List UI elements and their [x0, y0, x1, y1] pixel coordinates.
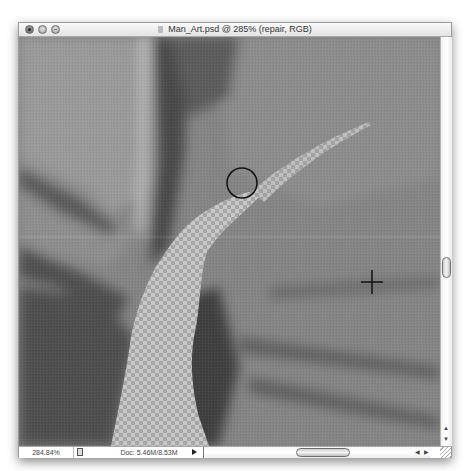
vertical-scroll-thumb[interactable] [442, 257, 451, 278]
status-bar: 284.84% Doc: 5.46M/8.53M ◀ ▶ [19, 446, 451, 458]
window-title: Man_Art.psd @ 285% (repair, RGB) [19, 23, 451, 36]
document-window: Man_Art.psd @ 285% (repair, RGB) [18, 22, 452, 458]
window-title-text: Man_Art.psd @ 285% (repair, RGB) [168, 24, 312, 34]
horizontal-scroll-thumb[interactable] [296, 448, 350, 457]
image-canvas[interactable] [19, 37, 440, 446]
scroll-up-arrow[interactable]: ▲ [440, 423, 452, 433]
vertical-scrollbar[interactable]: ▲ ▼ [440, 37, 452, 446]
scroll-down-arrow[interactable]: ▼ [440, 434, 452, 444]
title-bar[interactable]: Man_Art.psd @ 285% (repair, RGB) [19, 23, 451, 37]
horizontal-scrollbar[interactable]: ◀ ▶ [203, 447, 431, 458]
document-icon[interactable] [77, 448, 83, 456]
document-proxy-icon[interactable] [158, 26, 163, 33]
status-menu-triangle-icon[interactable] [192, 449, 197, 455]
resize-grip[interactable] [440, 447, 451, 458]
zoom-level-field[interactable]: 284.84% [19, 447, 74, 458]
scroll-right-arrow[interactable]: ▶ [421, 447, 431, 458]
doc-size-info: Doc: 5.46M/8.53M [89, 447, 209, 458]
